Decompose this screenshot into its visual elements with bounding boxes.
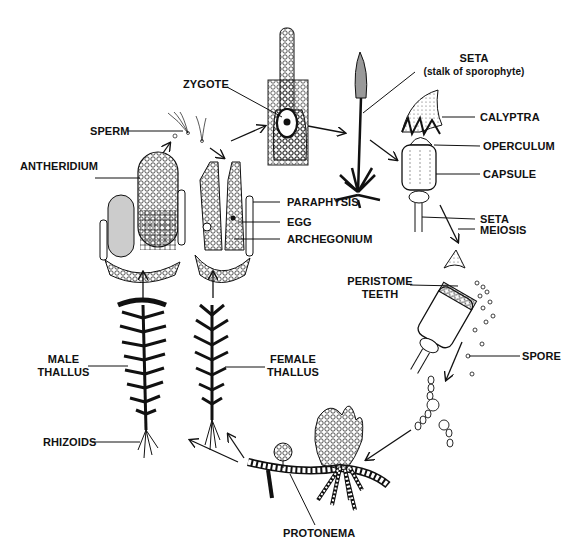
label-spore: SPORE [522, 350, 561, 363]
arrow-sporophyte-to-capsule [370, 140, 397, 160]
label-calyptra: CALYPTRA [480, 111, 540, 124]
arrow-protonema-to-female [228, 434, 244, 458]
moss-life-cycle-diagram: ZYGOTE SPERM ANTHERIDIUM PARAPHYSIS EGG … [0, 0, 574, 558]
label-female-line2: THALLUS [263, 366, 323, 379]
antheridium-drawing [100, 152, 185, 283]
male-gametophyte-drawing [118, 300, 166, 458]
capsule-drawing [402, 90, 442, 232]
label-female-thallus: FEMALE THALLUS [263, 353, 323, 379]
arrow-germination-to-protonema [366, 430, 411, 460]
spores [466, 281, 495, 376]
label-zygote: ZYGOTE [183, 78, 229, 91]
arrow-protonema-to-male [190, 440, 238, 462]
diagram-artwork [0, 0, 574, 558]
label-rhizoids: RHIZOIDS [43, 436, 96, 449]
operculum-drawing [444, 250, 465, 268]
sperm-drawing [168, 112, 206, 143]
label-peristome-line2: TEETH [345, 288, 415, 301]
arrow-antheridium-to-sperm [163, 143, 170, 153]
label-sperm: SPERM [90, 125, 130, 138]
zygote-archegonium-drawing [268, 28, 308, 165]
arrow-capsule-to-meiosis [440, 205, 458, 242]
arrow-zygote-to-sporophyte [308, 126, 345, 133]
label-male-thallus: MALE THALLUS [36, 353, 91, 379]
label-capsule: CAPSULE [483, 168, 536, 181]
arrow-to-zygote [231, 126, 265, 141]
arrow-sperm-to-archegonium [210, 148, 224, 158]
label-egg: EGG [287, 216, 312, 229]
female-gametophyte-drawing [194, 305, 228, 450]
protonema-drawing [248, 406, 388, 510]
label-seta-stalk-line2: (stalk of sporophyte) [414, 65, 534, 78]
label-seta-stalk-line1: SETA [414, 52, 534, 65]
label-female-line1: FEMALE [263, 353, 323, 366]
label-seta-stalk: SETA (stalk of sporophyte) [414, 52, 534, 78]
label-male-line2: THALLUS [36, 366, 91, 379]
label-archegonium: ARCHEGONIUM [287, 233, 372, 246]
label-meiosis: MEIOSIS [480, 224, 527, 237]
label-paraphysis: PARAPHYSIS [287, 196, 359, 209]
label-male-line1: MALE [36, 353, 91, 366]
label-antheridium: ANTHERIDIUM [20, 160, 98, 173]
sporophyte-drawing [336, 52, 380, 208]
label-protonema: PROTONEMA [283, 527, 355, 540]
label-peristome-teeth: PERISTOME TEETH [345, 275, 415, 301]
label-peristome-line1: PERISTOME [345, 275, 415, 288]
label-operculum: OPERCULUM [483, 140, 555, 153]
germinating-spores-drawing [415, 376, 453, 447]
